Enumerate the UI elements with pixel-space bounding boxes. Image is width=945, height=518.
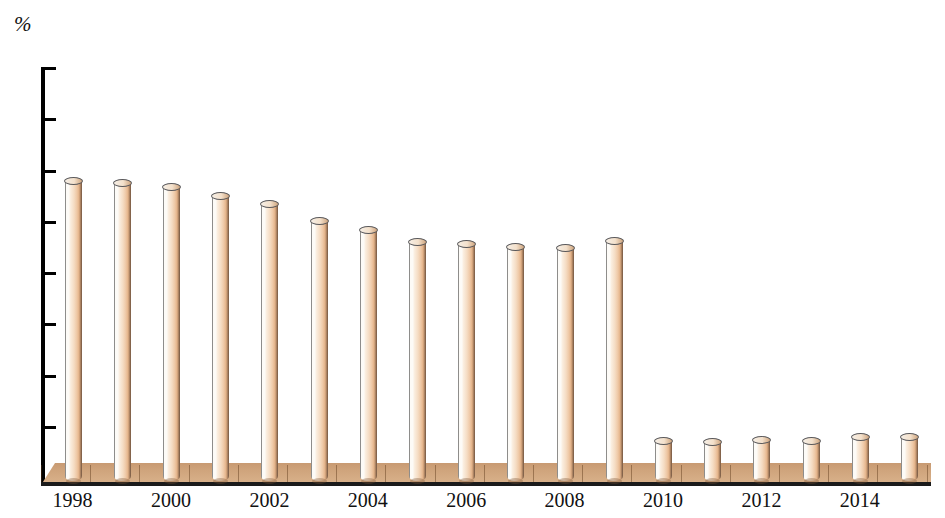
- bar-top-cap: [900, 433, 919, 441]
- bar: [311, 221, 328, 481]
- floor-gridline: [139, 465, 140, 482]
- floor-gridline: [385, 465, 386, 482]
- bar: [655, 441, 672, 481]
- bar-body: [114, 183, 131, 481]
- floor-gridline: [631, 465, 632, 482]
- x-tick-label: 2002: [224, 489, 314, 512]
- bar-body: [360, 230, 377, 481]
- y-tick-mark: [45, 67, 56, 70]
- bar: [507, 247, 524, 481]
- bar-base-shadow: [902, 478, 917, 484]
- bar-top-cap: [113, 179, 132, 187]
- bar-base-shadow: [853, 478, 868, 484]
- bar-base-shadow: [115, 478, 130, 484]
- floor-gridline: [287, 465, 288, 482]
- bar: [458, 244, 475, 481]
- bar-top-cap: [802, 437, 821, 445]
- bar-top-cap: [310, 217, 329, 225]
- bar-body: [803, 441, 820, 481]
- bar-body: [458, 244, 475, 481]
- bar-base-shadow: [607, 478, 622, 484]
- floor-gridline: [779, 465, 780, 482]
- floor-gridline: [828, 465, 829, 482]
- bar-base-shadow: [804, 478, 819, 484]
- bar: [606, 241, 623, 481]
- floor-gridline: [41, 465, 42, 482]
- x-tick-label: 2008: [520, 489, 610, 512]
- bar-top-cap: [162, 183, 181, 191]
- bar-top-cap: [64, 177, 83, 185]
- bar: [901, 437, 918, 481]
- y-tick-mark: [45, 221, 56, 224]
- floor-gridline: [877, 465, 878, 482]
- bar: [753, 440, 770, 481]
- bar-base-shadow: [312, 478, 327, 484]
- floor-gridline: [336, 465, 337, 482]
- y-tick-mark: [45, 272, 56, 275]
- floor-gridline: [582, 465, 583, 482]
- floor-gridline: [435, 465, 436, 482]
- bar-top-cap: [851, 433, 870, 441]
- bar-body: [655, 441, 672, 481]
- bar: [261, 204, 278, 481]
- bar: [803, 441, 820, 481]
- bar-base-shadow: [164, 478, 179, 484]
- x-tick-label: 2000: [126, 489, 216, 512]
- x-tick-label: 2012: [716, 489, 806, 512]
- bar-base-shadow: [558, 478, 573, 484]
- bar-body: [901, 437, 918, 481]
- bar-body: [704, 442, 721, 481]
- bar: [557, 248, 574, 481]
- y-tick-mark: [45, 118, 56, 121]
- y-tick-mark: [45, 375, 56, 378]
- bar-body: [261, 204, 278, 481]
- x-tick-label: 2010: [618, 489, 708, 512]
- y-tick-mark: [45, 170, 56, 173]
- plot-area: 504540353025201510 199820002002200420062…: [0, 0, 945, 518]
- floor-gridline: [90, 465, 91, 482]
- bar-base-shadow: [410, 478, 425, 484]
- bar-body: [507, 247, 524, 481]
- bar: [114, 183, 131, 481]
- bar-body: [852, 437, 869, 481]
- bar-body: [311, 221, 328, 481]
- bar: [852, 437, 869, 481]
- bar-body: [557, 248, 574, 481]
- bar: [212, 196, 229, 481]
- floor-gridline: [730, 465, 731, 482]
- bar: [704, 442, 721, 481]
- bar-chart: % 504540353025201510 1998200020022004200…: [0, 0, 945, 518]
- floor-gridline: [189, 465, 190, 482]
- bar-body: [409, 242, 426, 481]
- bar-body: [212, 196, 229, 481]
- x-tick-label: 2014: [815, 489, 905, 512]
- bar-base-shadow: [66, 478, 81, 484]
- bar-base-shadow: [361, 478, 376, 484]
- floor-gridline: [927, 465, 928, 482]
- bar: [360, 230, 377, 481]
- bar: [409, 242, 426, 481]
- bar-body: [163, 187, 180, 481]
- bar-body: [606, 241, 623, 481]
- floor-gridline: [533, 465, 534, 482]
- floor-gridline: [681, 465, 682, 482]
- bar-body: [753, 440, 770, 481]
- floor-gridline: [484, 465, 485, 482]
- bar-body: [65, 181, 82, 481]
- x-tick-label: 2006: [421, 489, 511, 512]
- y-tick-mark: [45, 426, 56, 429]
- x-tick-label: 1998: [28, 489, 118, 512]
- bar: [163, 187, 180, 481]
- bar-base-shadow: [656, 478, 671, 484]
- bar-top-cap: [359, 226, 378, 234]
- x-tick-label: 2004: [323, 489, 413, 512]
- floor-gridline: [238, 465, 239, 482]
- y-tick-mark: [45, 323, 56, 326]
- bar: [65, 181, 82, 481]
